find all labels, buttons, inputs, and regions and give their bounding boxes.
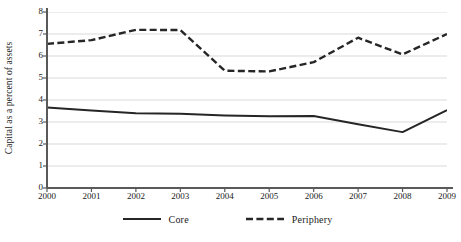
x-tick-label: 2003 [158, 192, 202, 201]
series-lines [47, 30, 447, 132]
series-line-periphery [47, 30, 447, 72]
x-axis-tick-labels: 2000200120022003200420052006200720082009 [47, 190, 447, 206]
y-axis-title-text: Capital as a percent of assets [4, 42, 14, 154]
plot-area [47, 12, 447, 188]
x-tick-label: 2006 [292, 192, 336, 201]
y-tick-label: 8 [21, 7, 43, 16]
legend-item-core[interactable]: Core [122, 214, 189, 225]
series-line-core [47, 107, 447, 132]
legend-swatch-solid-icon [122, 214, 162, 224]
legend-item-periphery[interactable]: Periphery [245, 214, 333, 225]
x-tick-label: 2001 [69, 192, 113, 201]
x-tick-label: 2008 [381, 192, 425, 201]
y-tick-label: 7 [21, 29, 43, 38]
legend-swatch-dashed-icon [245, 214, 285, 224]
y-tick-label: 4 [21, 95, 43, 104]
x-tick-label: 2000 [25, 192, 69, 201]
legend-label-core: Core [169, 214, 189, 225]
y-axis-title: Capital as a percent of assets [0, 0, 18, 196]
x-tick-label: 2005 [247, 192, 291, 201]
y-tick-label: 5 [21, 73, 43, 82]
y-tick-label: 2 [21, 139, 43, 148]
x-tick-label: 2004 [203, 192, 247, 201]
gridlines [47, 12, 447, 166]
x-tick-label: 2007 [336, 192, 380, 201]
x-tick-label: 2002 [114, 192, 158, 201]
x-tick-label: 2009 [425, 192, 461, 201]
chart-canvas [47, 12, 447, 188]
y-tick-label: 1 [21, 161, 43, 170]
y-tick-label: 6 [21, 51, 43, 60]
y-tick-label: 3 [21, 117, 43, 126]
chart-legend: Core Periphery [0, 206, 454, 232]
y-axis-tick-labels: 012345678 [19, 0, 43, 196]
legend-label-periphery: Periphery [292, 214, 333, 225]
